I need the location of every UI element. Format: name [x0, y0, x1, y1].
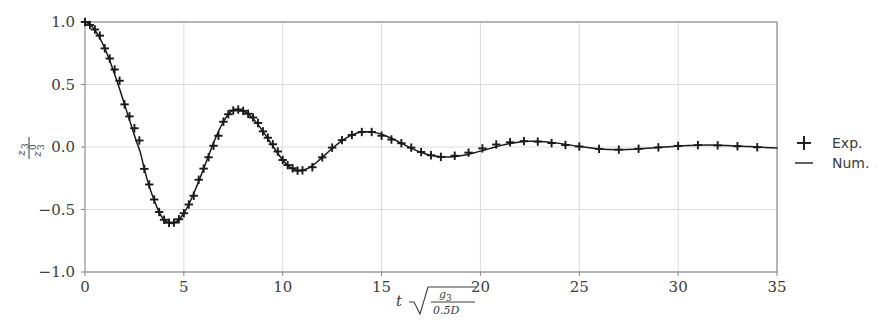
chart-background [0, 0, 886, 327]
y-axis-denominator: z [31, 151, 44, 158]
y-tick-label: −1.0 [39, 263, 75, 281]
y-tick-label: 0.5 [51, 76, 75, 94]
x-tick-label: 25 [570, 278, 589, 296]
chart-figure: 05101520253035 −1.0−0.50.00.51.0 t g 3 0… [0, 0, 886, 327]
x-axis-denominator: 0.5D [433, 304, 459, 317]
y-tick-label: 1.0 [51, 13, 75, 31]
x-axis-title-variable: t [396, 292, 403, 310]
y-axis-numerator: z [15, 150, 28, 157]
x-axis-numerator: g [439, 288, 446, 301]
x-tick-label: 10 [273, 278, 292, 296]
legend-label-exp: Exp. [832, 135, 862, 151]
legend-label-num: Num. [832, 155, 869, 171]
x-tick-label: 0 [80, 278, 90, 296]
y-tick-label: 0.0 [51, 138, 75, 156]
damped-oscillation-chart: 05101520253035 −1.0−0.50.00.51.0 t g 3 0… [0, 0, 886, 327]
x-tick-label: 30 [669, 278, 688, 296]
y-axis-denominator-sup: 0 [28, 144, 38, 150]
y-tick-label: −0.5 [39, 201, 75, 219]
x-tick-label: 15 [372, 278, 391, 296]
x-tick-label: 5 [179, 278, 189, 296]
x-tick-label: 35 [767, 278, 786, 296]
